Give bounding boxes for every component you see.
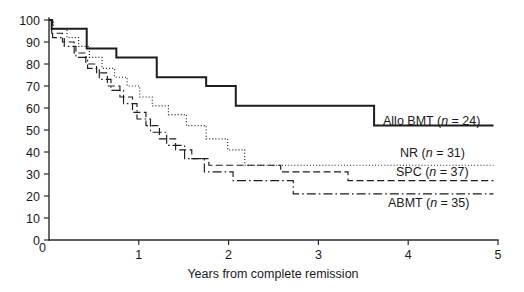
series-label-spc: SPC (n = 37) [396, 165, 469, 179]
series-label-abmt: ABMT (n = 35) [388, 196, 469, 210]
y-tick-label-40: 40 [26, 146, 40, 160]
x-tick-label-1: 1 [135, 248, 142, 262]
series-line-allo-bmt [49, 20, 494, 126]
x-tick-label-0: 0 [39, 241, 46, 255]
y-tick-label-20: 20 [26, 190, 40, 204]
y-tick-label-70: 70 [26, 80, 40, 94]
series-line-nr [49, 20, 494, 165]
y-tick-label-30: 30 [26, 168, 40, 182]
x-tick-label-2: 2 [225, 248, 232, 262]
series-label-nr: NR (n = 31) [400, 146, 465, 160]
x-tick-label-4: 4 [405, 248, 412, 262]
y-tick-label-100: 100 [19, 14, 40, 28]
x-tick-label-5: 5 [495, 248, 502, 262]
y-tick-label-50: 50 [26, 124, 40, 138]
series-label-spc-n: n [429, 165, 436, 179]
series-label-nr-name: NR [400, 146, 422, 160]
x-axis-tick-labels: 012345 [39, 241, 501, 262]
y-tick-label-60: 60 [26, 102, 40, 116]
x-tick-label-3: 3 [315, 248, 322, 262]
y-axis-tick-labels: 0102030405060708090100 [19, 14, 40, 248]
series-label-spc-count: = 37) [436, 165, 468, 179]
series-label-nr-count: = 31) [433, 146, 465, 160]
series-label-allo-bmt-count: = 24) [448, 114, 480, 128]
series-label-allo-bmt-n: n [441, 114, 448, 128]
series-label-nr-n: n [426, 146, 433, 160]
y-axis-tick-marks [44, 20, 49, 240]
y-tick-label-90: 90 [26, 36, 40, 50]
x-axis-tick-marks [139, 240, 498, 245]
y-tick-label-10: 10 [26, 212, 40, 226]
series-label-abmt-count: = 35) [437, 196, 469, 210]
x-axis-title: Years from complete remission [187, 267, 358, 281]
chart-canvas: 0102030405060708090100 012345 Years from… [0, 0, 524, 292]
series-label-abmt-n: n [430, 196, 437, 210]
series-label-allo-bmt: Allo BMT (n = 24) [383, 114, 480, 128]
series-label-allo-bmt-name: Allo BMT [383, 114, 437, 128]
series-label-spc-name: SPC [396, 165, 425, 179]
y-tick-label-80: 80 [26, 58, 40, 72]
km-survival-chart: 0102030405060708090100 012345 Years from… [0, 0, 524, 292]
series-label-abmt-name: ABMT [388, 196, 426, 210]
